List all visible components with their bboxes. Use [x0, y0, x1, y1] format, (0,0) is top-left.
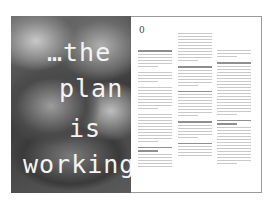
headline-photo: …the plan is working [11, 16, 131, 193]
text-column-2 [178, 33, 212, 158]
text-column-1 [138, 50, 172, 169]
headline-line-2: plan [59, 76, 123, 101]
page-number: 0 [139, 25, 145, 35]
headline-line-1: …the [47, 40, 111, 65]
text-column-3 [217, 50, 251, 166]
headline-line-4: working [23, 152, 131, 177]
headline-line-3: is [69, 116, 101, 141]
